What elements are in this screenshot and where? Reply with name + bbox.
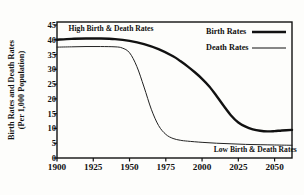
y-tick-label: 20: [39, 95, 56, 103]
x-tick-label: 2050: [255, 162, 295, 172]
y-tick-label: 10: [39, 124, 56, 132]
y-axis-label-line2: (Per 1,000 Population): [17, 40, 27, 140]
x-tick-label: 1975: [146, 162, 186, 172]
x-tick-label: 2025: [218, 162, 258, 172]
x-tick-label: 1925: [73, 162, 113, 172]
y-tick-label: 25: [39, 80, 56, 88]
x-tick-label: 1950: [110, 162, 150, 172]
chart-annotation: High Birth & Death Rates: [69, 24, 154, 33]
y-tick-label: 40: [39, 36, 56, 44]
y-tick-label: 45: [39, 21, 56, 29]
chart-annotation: Low Birth & Death Rates: [214, 145, 297, 154]
x-tick-label: 2000: [182, 162, 222, 172]
x-tick-label: 1900: [37, 162, 77, 172]
y-axis-label: Birth Rates and Death Rates (Per 1,000 P…: [2, 20, 32, 160]
y-tick-label: 0: [39, 154, 56, 162]
y-axis-label-line1: Birth Rates and Death Rates: [7, 40, 17, 140]
legend-label: Birth Rates: [206, 27, 246, 36]
y-tick-label: 35: [39, 51, 56, 59]
y-tick-label: 5: [39, 139, 56, 147]
legend-label: Death Rates: [206, 43, 249, 52]
y-tick-label: 30: [39, 65, 56, 73]
y-tick-label: 15: [39, 110, 56, 118]
